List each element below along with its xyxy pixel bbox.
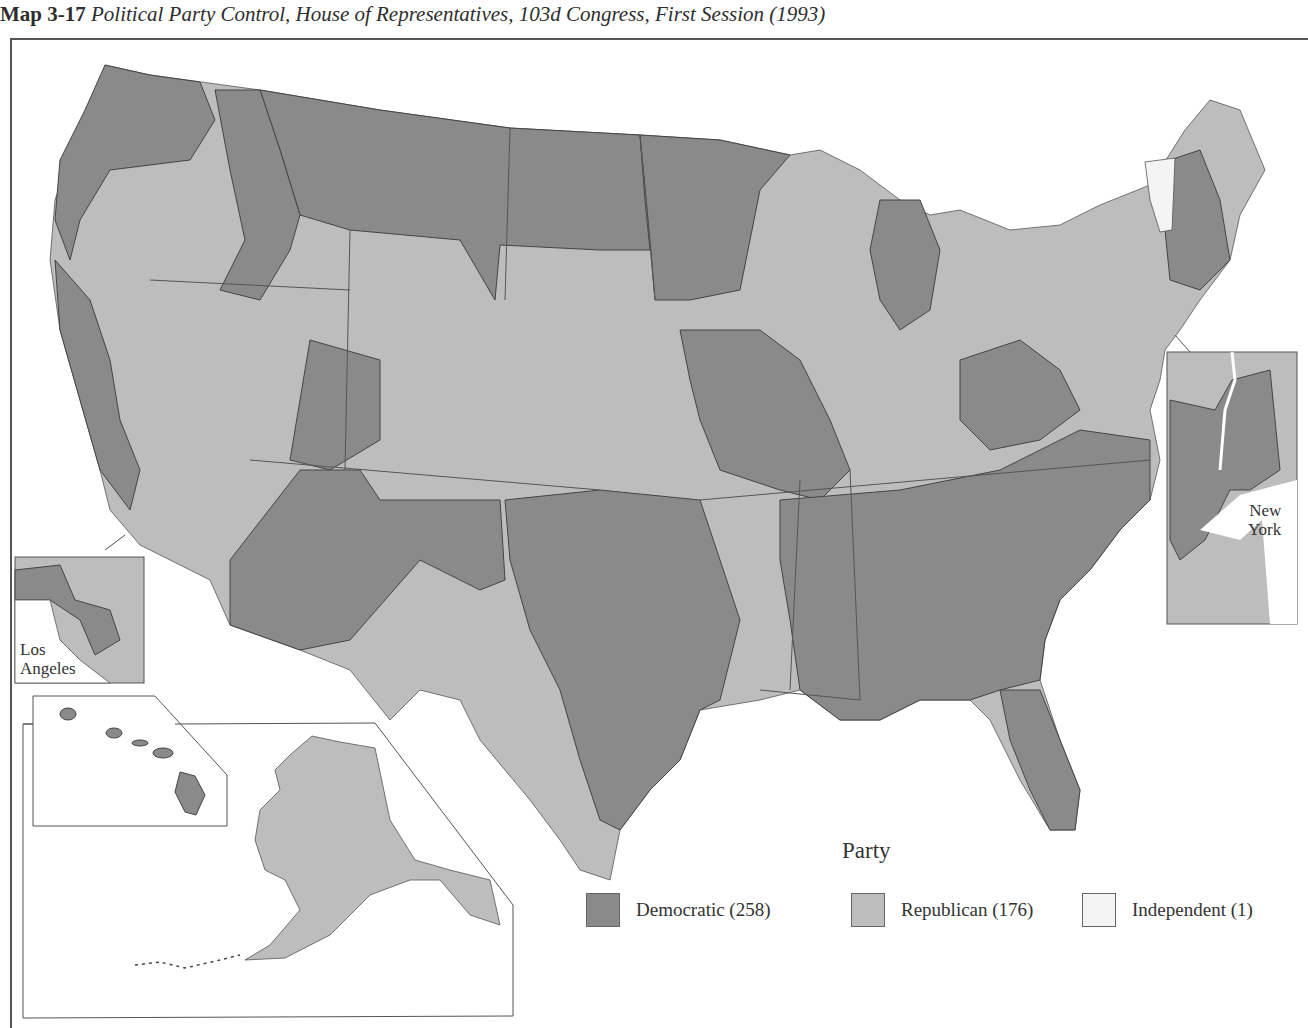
legend-title: Party [842, 838, 891, 864]
legend-item-republican: Republican (176) [851, 893, 1033, 927]
democratic-swatch [586, 893, 620, 927]
republican-swatch [851, 893, 885, 927]
us-district-map [0, 0, 1308, 1028]
independent-swatch [1082, 893, 1116, 927]
legend-item-democratic: Democratic (258) [586, 893, 771, 927]
new-york-label: New York [1248, 501, 1281, 539]
los-angeles-label: Los Angeles [20, 640, 76, 678]
legend-item-independent: Independent (1) [1082, 893, 1253, 927]
